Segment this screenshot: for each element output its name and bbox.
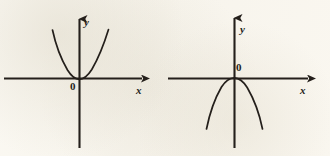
figure-container: 0 x y 0 x y bbox=[0, 0, 330, 156]
upward-parabola-plot bbox=[0, 0, 165, 156]
x-axis-label-left: x bbox=[136, 85, 142, 96]
origin-label-right: 0 bbox=[236, 62, 242, 73]
x-axis-label-right: x bbox=[300, 85, 306, 96]
y-axis-label-right: y bbox=[240, 24, 245, 35]
downward-parabola-plot bbox=[165, 0, 330, 156]
y-axis-label-left: y bbox=[84, 17, 89, 28]
origin-label-left: 0 bbox=[70, 81, 76, 92]
